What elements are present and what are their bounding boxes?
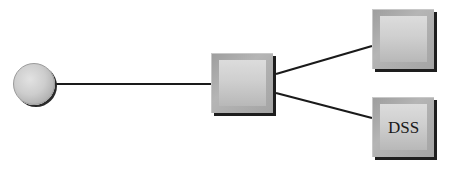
dss-node-label: DSS bbox=[388, 119, 419, 136]
network-diagram: DSS bbox=[0, 0, 467, 171]
center-node-box bbox=[211, 53, 273, 113]
start-node-circle bbox=[13, 63, 55, 105]
top-right-node-face bbox=[380, 16, 427, 62]
edge-center-to-top-right bbox=[276, 46, 372, 74]
dss-node-box: DSS bbox=[372, 97, 434, 157]
top-right-node-box bbox=[372, 9, 434, 69]
edge-center-to-bottom-right bbox=[276, 93, 372, 118]
dss-node-face: DSS bbox=[380, 104, 427, 150]
center-node-face bbox=[219, 60, 266, 106]
